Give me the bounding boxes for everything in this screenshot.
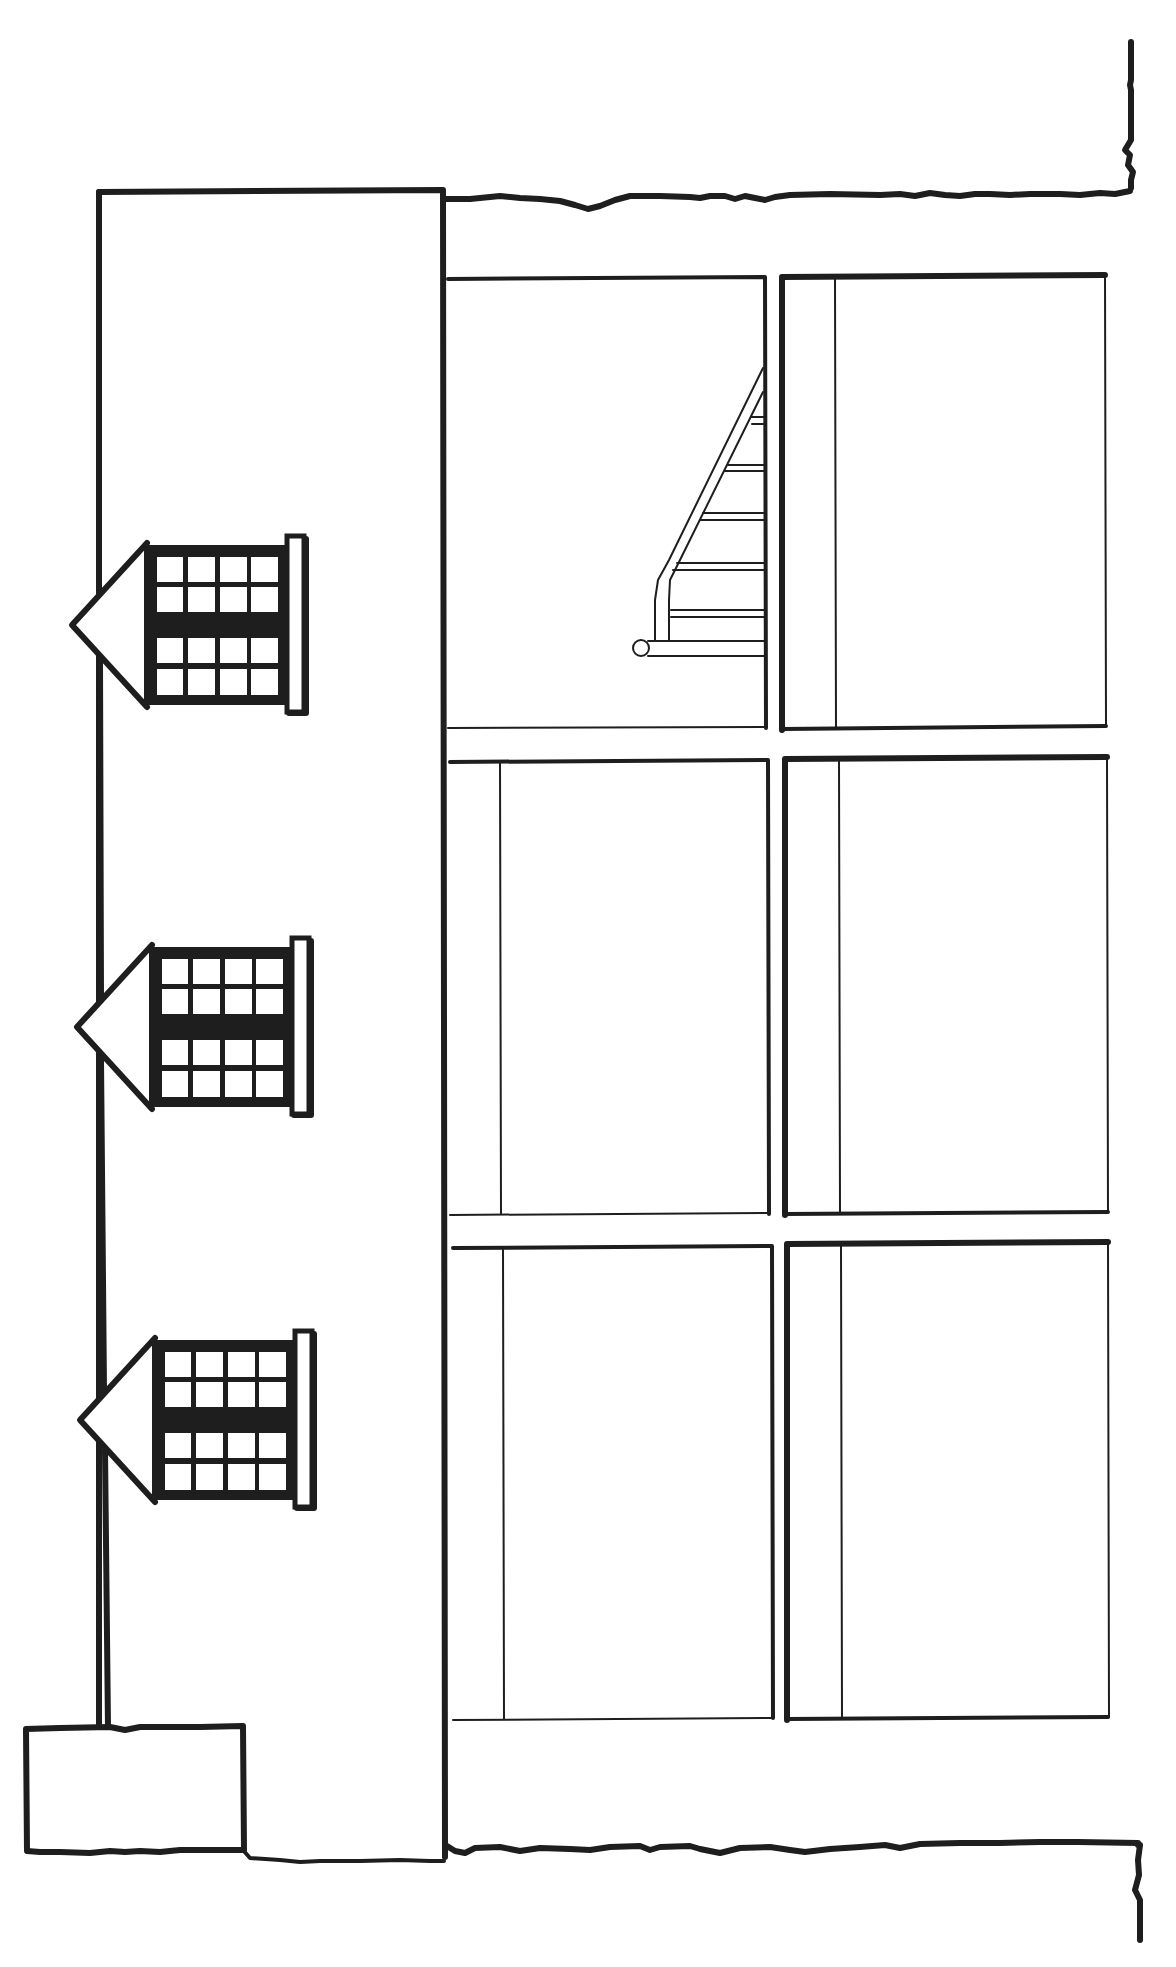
panel-row1-left [448,277,766,728]
building-elevation-drawing [0,0,1176,1967]
panel-row1-right [782,275,1106,730]
base-box [26,1726,444,1862]
dormer-window-3 [80,1331,314,1508]
top-boundary-line [445,42,1133,209]
bottom-boundary-line [447,1842,1140,1940]
dormer-window-2 [77,938,311,1115]
panel-grid [448,275,1109,1720]
staircase [633,368,764,656]
panel-row3-left [453,1246,773,1720]
stair-knob-icon [633,640,649,656]
dormer-window-1 [72,536,306,713]
panel-row2-right [785,757,1108,1215]
panel-row3-right [787,1242,1109,1720]
panel-row2-left [450,760,769,1215]
